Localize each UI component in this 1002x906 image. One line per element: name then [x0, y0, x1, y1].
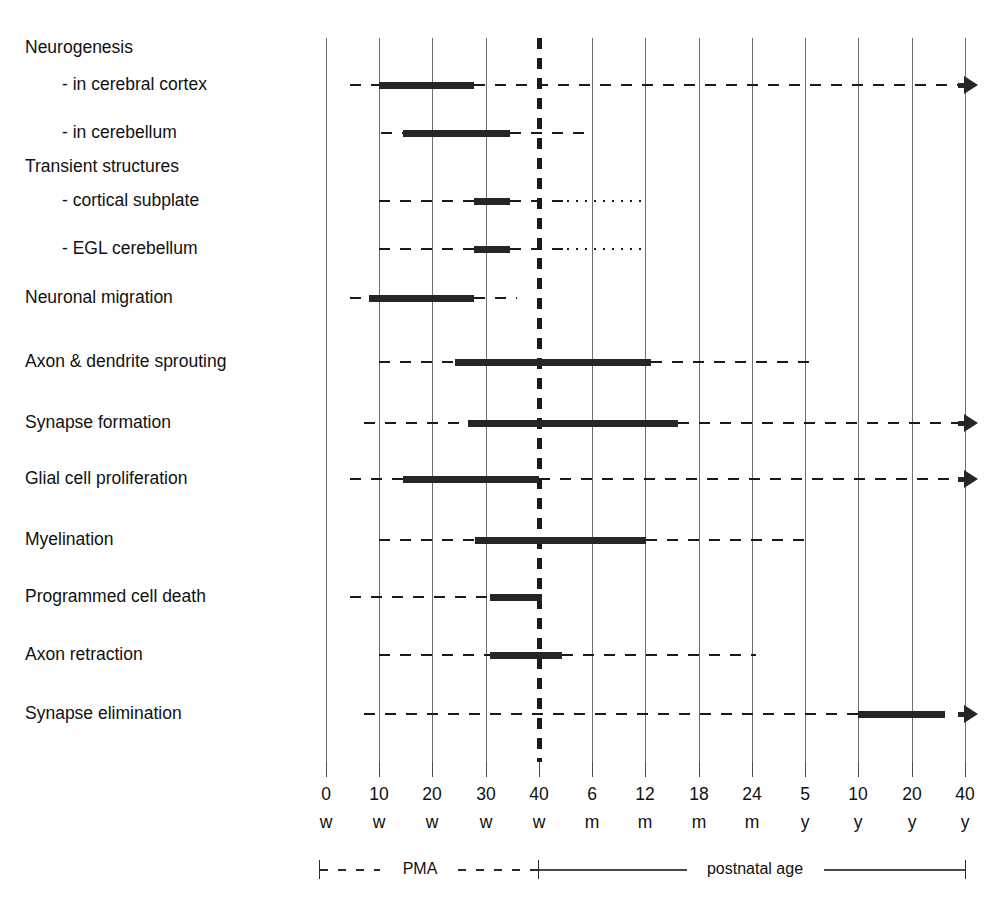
dotted-extension: [567, 248, 645, 250]
axis-tick: [432, 762, 433, 777]
axis-tick-unit: w: [519, 812, 559, 832]
dashed-baseline: [350, 84, 379, 86]
axis-tick-unit: m: [679, 812, 719, 832]
activity-bar: [403, 476, 539, 483]
axis-tick-value: 20: [412, 784, 452, 804]
dashed-baseline: [539, 478, 958, 480]
activity-bar: [858, 711, 945, 718]
timeline-row: [0, 80, 1002, 90]
dashed-baseline: [379, 200, 474, 202]
dashed-baseline: [381, 132, 403, 134]
axis-tick-unit: m: [625, 812, 665, 832]
activity-bar: [403, 130, 510, 137]
axis-tick-value: 10: [838, 784, 878, 804]
axis-tick-value: 10: [359, 784, 399, 804]
axis-tick: [379, 762, 380, 777]
axis-tick-value: 40: [519, 784, 559, 804]
axis-tick-unit: y: [838, 812, 878, 832]
continues-arrow-icon: [964, 470, 978, 488]
axis-tick-unit: y: [945, 812, 985, 832]
axis-tick-unit: m: [732, 812, 772, 832]
activity-bar: [475, 537, 646, 544]
axis-tick: [486, 762, 487, 777]
dotted-extension: [567, 200, 645, 202]
timeline-chart: Neurogenesis- in cerebral cortex- in cer…: [0, 0, 1002, 906]
continues-arrow-icon: [964, 76, 978, 94]
pma-label: PMA: [385, 860, 455, 878]
axis-tick-value: 12: [625, 784, 665, 804]
timeline-row: [0, 592, 1002, 602]
dashed-baseline: [364, 713, 858, 715]
axis-tick: [326, 762, 327, 777]
axis-tick-unit: w: [359, 812, 399, 832]
axis-tick-unit: w: [466, 812, 506, 832]
axis-tick-value: 18: [679, 784, 719, 804]
axis-tick-value: 24: [732, 784, 772, 804]
dashed-baseline: [651, 361, 810, 363]
axis-tick: [699, 762, 700, 777]
bracket-tick-end: [965, 860, 966, 879]
axis-tick-value: 30: [466, 784, 506, 804]
axis-tick: [539, 762, 540, 777]
postnatal-age-label: postnatal age: [690, 860, 820, 878]
axis-tick-unit: m: [572, 812, 612, 832]
timeline-row: [0, 357, 1002, 367]
timeline-row: [0, 293, 1002, 303]
timeline-row: [0, 535, 1002, 545]
timeline-row: [0, 474, 1002, 484]
bracket-dash-left: [320, 869, 380, 871]
timeline-row: [0, 650, 1002, 660]
axis-tick-value: 5: [785, 784, 825, 804]
dashed-baseline: [379, 539, 475, 541]
dashed-baseline: [474, 84, 958, 86]
bracket-solid-left: [539, 869, 687, 871]
axis-tick-unit: y: [892, 812, 932, 832]
activity-bar: [474, 198, 510, 205]
activity-bar: [468, 420, 678, 427]
axis-tick-unit: w: [306, 812, 346, 832]
timeline-row: [0, 244, 1002, 254]
axis-tick: [858, 762, 859, 777]
dashed-baseline: [379, 654, 490, 656]
dashed-baseline: [474, 297, 517, 299]
axis-tick-value: 20: [892, 784, 932, 804]
bracket-solid-right: [824, 869, 965, 871]
axis-tick-value: 0: [306, 784, 346, 804]
dashed-baseline: [646, 539, 810, 541]
dashed-baseline: [510, 200, 567, 202]
dashed-baseline: [510, 248, 567, 250]
dashed-baseline: [350, 297, 369, 299]
bracket-dash-right: [458, 869, 538, 871]
axis-tick-unit: y: [785, 812, 825, 832]
axis-tick: [805, 762, 806, 777]
timeline-row: [0, 709, 1002, 719]
dashed-baseline: [562, 654, 756, 656]
axis-tick: [592, 762, 593, 777]
axis-tick-value: 6: [572, 784, 612, 804]
continues-arrow-icon: [964, 705, 978, 723]
activity-bar: [474, 246, 510, 253]
continues-arrow-icon: [964, 414, 978, 432]
timeline-row: [0, 418, 1002, 428]
axis-tick: [912, 762, 913, 777]
axis-tick-unit: w: [412, 812, 452, 832]
activity-bar: [455, 359, 651, 366]
dashed-baseline: [350, 596, 490, 598]
dashed-baseline: [379, 361, 455, 363]
dashed-baseline: [350, 478, 403, 480]
axis-tick-value: 40: [945, 784, 985, 804]
axis-tick: [645, 762, 646, 777]
timeline-row: [0, 128, 1002, 138]
activity-bar: [490, 652, 562, 659]
activity-bar: [490, 594, 542, 601]
dashed-baseline: [379, 248, 474, 250]
activity-bar: [369, 295, 474, 302]
activity-bar: [379, 82, 474, 89]
timeline-row: [0, 196, 1002, 206]
axis-tick: [965, 762, 966, 777]
dashed-baseline: [364, 422, 468, 424]
dashed-baseline: [510, 132, 593, 134]
axis-tick: [752, 762, 753, 777]
dashed-baseline: [678, 422, 958, 424]
